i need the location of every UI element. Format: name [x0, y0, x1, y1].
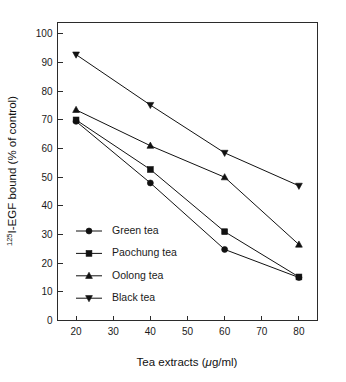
series-green-tea	[73, 118, 302, 280]
y-tick-label: 100	[36, 28, 53, 39]
legend-label: Green tea	[112, 224, 159, 236]
series-line	[76, 110, 299, 245]
series-oolong-tea	[73, 106, 303, 247]
data-point	[147, 180, 153, 186]
y-tick-label: 40	[41, 200, 53, 211]
y-tick-label: 70	[41, 114, 53, 125]
data-point	[73, 106, 80, 112]
data-point	[147, 167, 153, 173]
y-axis-title-superscript: 125	[5, 233, 14, 246]
legend-item-green-tea[interactable]: Green tea	[76, 224, 159, 236]
y-tick-label: 60	[41, 143, 53, 154]
data-point	[222, 229, 228, 235]
tea-egf-binding-line-chart: 0102030405060708090100 20304050607080 Gr…	[0, 0, 346, 382]
x-tick-label: 40	[145, 326, 157, 337]
legend-label: Oolong tea	[112, 269, 164, 281]
y-axis-title-text: 125I-EGF bound (% of control)	[5, 96, 18, 246]
series-line	[76, 120, 299, 277]
data-point	[221, 150, 228, 156]
legend-marker-circle-icon	[86, 228, 92, 234]
x-axis-ticks: 20304050607080	[71, 316, 305, 337]
series-line	[76, 121, 299, 277]
series-paochung-tea	[73, 117, 302, 280]
legend-item-paochung-tea[interactable]: Paochung tea	[76, 246, 177, 258]
x-axis-title-post: g/ml)	[212, 356, 238, 368]
legend-label: Black tea	[112, 291, 155, 303]
data-point	[73, 117, 79, 123]
data-point	[222, 246, 228, 252]
y-tick-label: 90	[41, 57, 53, 68]
y-tick-label: 10	[41, 286, 53, 297]
y-tick-label: 30	[41, 229, 53, 240]
data-point	[147, 102, 154, 108]
x-axis-title-text: Tea extracts (μg/ml)	[137, 356, 238, 368]
figure-container: 0102030405060708090100 20304050607080 Gr…	[0, 0, 346, 382]
x-tick-label: 70	[256, 326, 268, 337]
series-line	[76, 55, 299, 186]
x-tick-label: 50	[182, 326, 194, 337]
x-tick-label: 80	[293, 326, 305, 337]
y-axis-ticks: 0102030405060708090100	[36, 28, 63, 326]
y-tick-label: 50	[41, 172, 53, 183]
y-tick-label: 20	[41, 258, 53, 269]
data-point	[296, 183, 303, 189]
legend-label: Paochung tea	[112, 246, 177, 258]
data-point	[147, 142, 154, 148]
legend-marker-square-icon	[86, 251, 92, 257]
x-tick-label: 30	[108, 326, 120, 337]
x-axis-title-pre: Tea extracts (	[137, 356, 206, 368]
data-point	[73, 52, 80, 58]
legend-item-black-tea[interactable]: Black tea	[76, 291, 155, 303]
series-black-tea	[73, 52, 303, 189]
chart-legend: Green teaPaochung teaOolong teaBlack tea	[76, 224, 177, 303]
data-point	[296, 274, 302, 280]
x-tick-label: 20	[71, 326, 83, 337]
x-tick-label: 60	[219, 326, 231, 337]
data-series-group	[73, 52, 303, 281]
y-axis-title: 125I-EGF bound (% of control)	[5, 96, 18, 246]
y-axis-title-main: I-EGF bound (% of control)	[6, 96, 18, 234]
y-tick-label: 0	[47, 315, 53, 326]
legend-item-oolong-tea[interactable]: Oolong tea	[76, 269, 164, 281]
y-tick-label: 80	[41, 86, 53, 97]
